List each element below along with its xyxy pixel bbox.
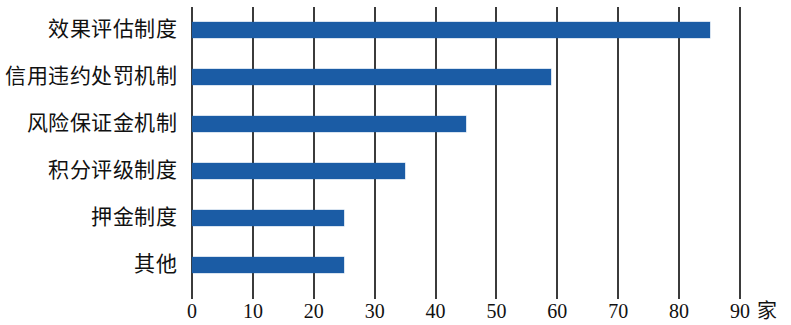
bar [192, 116, 466, 132]
x-axis-tick-label: 30 [365, 299, 385, 323]
bar [192, 69, 551, 85]
value-axis-line [191, 7, 193, 288]
plot-area [192, 7, 740, 288]
gridline [252, 7, 254, 288]
x-axis-tick-label: 20 [304, 299, 324, 323]
x-axis-tick-mark [435, 288, 437, 299]
x-axis-tick-mark [678, 288, 680, 299]
gridline [556, 7, 558, 288]
x-axis-tick-label: 0 [187, 299, 197, 323]
category-axis: 效果评估制度信用违约处罚机制风险保证金机制积分评级制度押金制度其他 [0, 0, 185, 288]
x-axis-tick-mark [495, 288, 497, 299]
category-label: 押金制度 [0, 207, 177, 228]
gridline [678, 7, 680, 288]
category-label: 积分评级制度 [0, 160, 177, 181]
bar [192, 210, 344, 226]
gridline [313, 7, 315, 288]
x-axis-tick-mark [556, 288, 558, 299]
category-label: 效果评估制度 [0, 19, 177, 40]
bar [192, 257, 344, 273]
bar [192, 22, 710, 38]
gridline [495, 7, 497, 288]
gridline [435, 7, 437, 288]
x-axis-unit-label: 家 [757, 299, 777, 323]
x-axis-tick-label: 50 [486, 299, 506, 323]
category-label: 风险保证金机制 [0, 113, 177, 134]
x-axis-tick-label: 90 [730, 299, 750, 323]
x-axis-tick-mark [252, 288, 254, 299]
x-axis-tick-mark [313, 288, 315, 299]
x-axis: 0102030405060708090 [192, 288, 740, 325]
x-axis-tick-label: 70 [608, 299, 628, 323]
x-axis-tick-label: 40 [426, 299, 446, 323]
x-axis-tick-label: 10 [243, 299, 263, 323]
gridline [739, 7, 741, 288]
horizontal-bar-chart: 效果评估制度信用违约处罚机制风险保证金机制积分评级制度押金制度其他 010203… [0, 0, 791, 325]
x-axis-tick-mark [374, 288, 376, 299]
x-axis-tick-label: 80 [669, 299, 689, 323]
gridline [617, 7, 619, 288]
x-axis-tick-mark [617, 288, 619, 299]
x-axis-tick-mark [739, 288, 741, 299]
x-axis-tick-label: 60 [547, 299, 567, 323]
gridline [374, 7, 376, 288]
x-axis-tick-mark [191, 288, 193, 299]
category-label: 其他 [0, 254, 177, 275]
bar [192, 163, 405, 179]
category-label: 信用违约处罚机制 [0, 66, 177, 87]
